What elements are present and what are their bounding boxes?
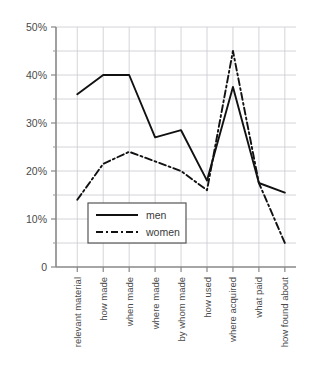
legend-label-men: men [146, 209, 167, 221]
x-tick-label: how used [202, 277, 213, 318]
y-tick-label: 20% [26, 165, 47, 177]
x-tick-label: when made [124, 277, 135, 327]
y-axis-tick-labels: 010%20%30%40%50% [26, 21, 47, 273]
y-tick-label: 50% [26, 21, 47, 33]
chart-legend: men women [88, 203, 186, 243]
x-tick-label: where made [150, 277, 161, 330]
chart-container: 010%20%30%40%50% relevant materialhow ma… [0, 0, 317, 366]
legend-label-women: women [145, 226, 180, 238]
x-tick-label: how found about [279, 277, 290, 348]
y-tick-label: 40% [26, 69, 47, 81]
x-tick-label: by whom made [176, 277, 187, 341]
x-tick-label: where acquired [227, 277, 238, 343]
y-tick-label: 0 [41, 261, 47, 273]
x-axis-tick-labels: relevant materialhow madewhen madewhere … [72, 277, 291, 348]
y-tick-label: 10% [26, 213, 47, 225]
x-tick-label: how made [98, 277, 109, 321]
y-tick-label: 30% [26, 117, 47, 129]
x-tick-label: relevant material [72, 277, 83, 347]
line-chart: 010%20%30%40%50% relevant materialhow ma… [0, 0, 317, 366]
x-tick-label: what paid [253, 277, 264, 319]
